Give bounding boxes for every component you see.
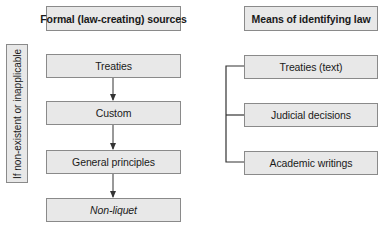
node-judicial-decisions: Judicial decisions bbox=[244, 103, 378, 127]
node-non-liquet: Non-liquet bbox=[46, 198, 181, 222]
bracket-connector bbox=[226, 66, 244, 162]
identifying-law-header: Means of identifying law bbox=[244, 6, 378, 31]
node-custom: Custom bbox=[46, 101, 181, 125]
node-general-principles: General principles bbox=[46, 150, 181, 174]
side-condition-label: If non-existent or inapplicable bbox=[6, 44, 28, 183]
down-arrows bbox=[110, 78, 116, 198]
formal-sources-header: Formal (law-creating) sources bbox=[46, 6, 181, 31]
node-academic-writings: Academic writings bbox=[244, 151, 378, 175]
side-condition-text: If non-existent or inapplicable bbox=[12, 48, 23, 178]
node-treaties: Treaties bbox=[46, 54, 181, 78]
node-treaties-text: Treaties (text) bbox=[244, 55, 378, 79]
